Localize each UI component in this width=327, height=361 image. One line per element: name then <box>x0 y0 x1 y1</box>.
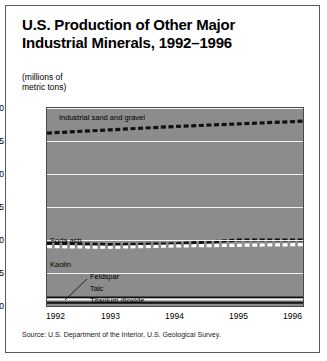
y-axis: 051015202530 <box>0 107 4 307</box>
y-axis-tick-label: 15 <box>0 202 4 212</box>
x-axis-tick-label: 1993 <box>101 311 120 321</box>
y-axis-tick-label: 5 <box>0 268 4 278</box>
y-axis-tick-label: 25 <box>0 136 4 146</box>
y-axis-units-line-1: (millions of <box>22 72 66 82</box>
series-label: Soda ash <box>50 236 82 245</box>
series-label: Industrial sand and gravel <box>59 113 145 122</box>
y-axis-units-line-2: metric tons) <box>22 82 66 92</box>
y-axis-tick-label: 20 <box>0 169 4 179</box>
y-axis-tick-label: 30 <box>0 103 4 113</box>
series-label: Kaolin <box>50 260 71 269</box>
series-line <box>47 121 303 133</box>
gridline <box>47 108 303 109</box>
x-axis-tick-label: 1996 <box>283 311 302 321</box>
series-label: Talc <box>90 284 103 293</box>
series-label: Feldspar <box>90 272 119 281</box>
figure-panel: U.S. Production of Other Major Industria… <box>5 5 320 353</box>
x-axis-tick-mark <box>176 107 177 108</box>
plot-wrapper: Industrial sand and gravelSoda ashKaolin… <box>46 107 304 307</box>
x-axis-tick-mark <box>240 107 241 108</box>
x-axis-tick-label: 1992 <box>46 311 65 321</box>
x-axis-tick-mark <box>112 107 113 108</box>
y-axis-units-label: (millions of metric tons) <box>22 72 66 92</box>
series-label: Titanium dioxide <box>90 296 144 305</box>
gridline <box>47 174 303 175</box>
chart-title: U.S. Production of Other Major Industria… <box>22 16 292 52</box>
gridline <box>47 240 303 241</box>
chart-title-line-2: Industrial Minerals, 1992–1996 <box>22 34 292 52</box>
x-axis-tick-label: 1995 <box>229 311 248 321</box>
plot-area: Industrial sand and gravelSoda ashKaolin… <box>46 107 304 307</box>
x-axis-tick-label: 1994 <box>165 311 184 321</box>
y-axis-tick-label: 10 <box>0 235 4 245</box>
gridline <box>47 273 303 274</box>
y-axis-tick-label: 0 <box>0 301 4 311</box>
gridline <box>47 207 303 208</box>
x-axis: 19921993199419951996 <box>46 311 304 325</box>
source-note: Source: U.S. Department of the Interior,… <box>22 331 221 338</box>
chart-title-line-1: U.S. Production of Other Major <box>22 16 292 34</box>
gridline <box>47 141 303 142</box>
